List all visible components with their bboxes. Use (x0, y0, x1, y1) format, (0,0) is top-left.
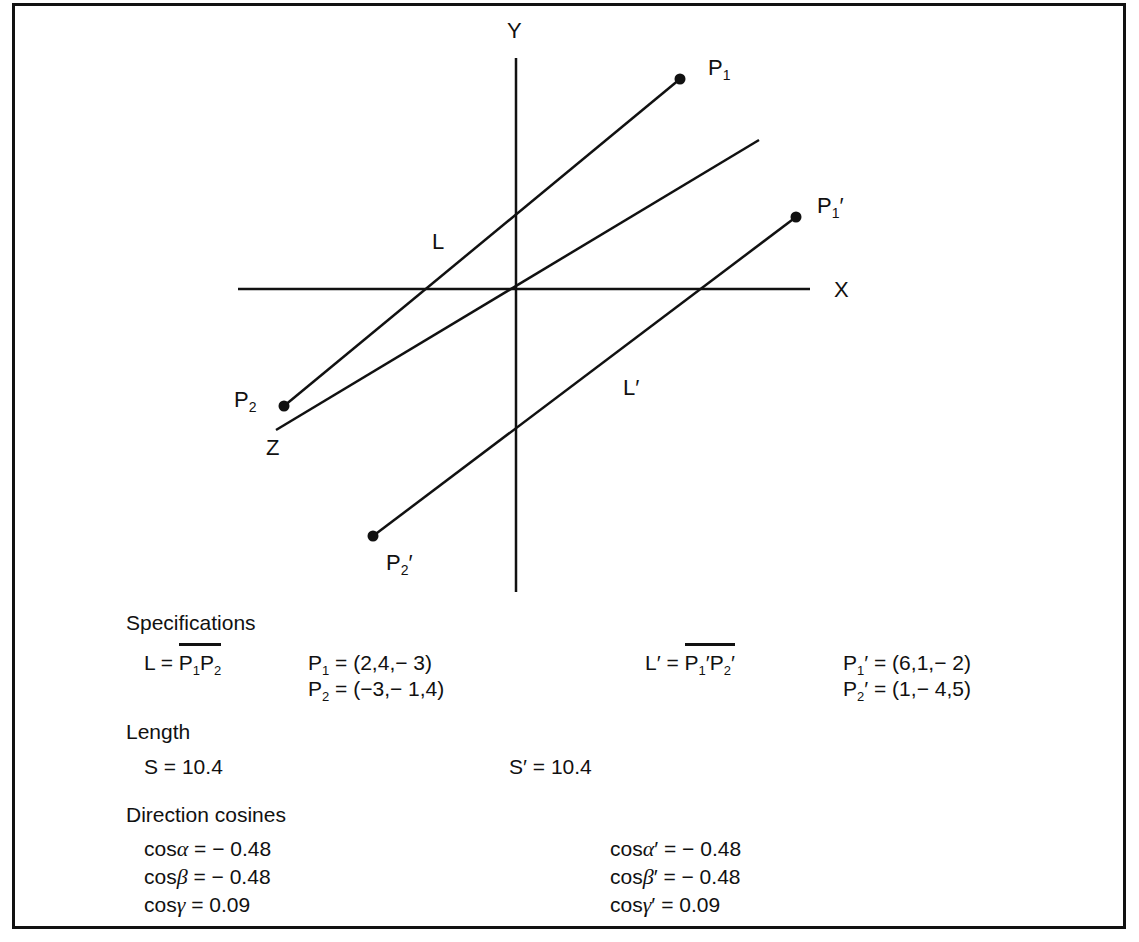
point-P2-label: P2 (234, 389, 256, 414)
cos-gamma-prime: cosγ′ = 0.09 (610, 894, 720, 916)
L-definition: L = P1P2 (144, 652, 221, 677)
P2-prime-coordinates: P2′ = (1,− 4,5) (843, 678, 971, 703)
z-axis-label: Z (266, 437, 279, 459)
point-P1-prime (791, 212, 802, 223)
3d-line-diagram (0, 0, 1139, 942)
specifications-heading: Specifications (126, 612, 256, 633)
cos-beta: cosβ = − 0.48 (144, 866, 271, 888)
point-P2 (279, 401, 290, 412)
P1-prime-coordinates: P1′ = (6,1,− 2) (843, 652, 971, 677)
P2-coordinates: P2 = (−3,− 1,4) (308, 678, 444, 703)
line-L-prime (373, 217, 796, 536)
line-L (284, 79, 680, 406)
line-L-prime-label: L′ (623, 377, 639, 399)
x-axis-label: X (834, 279, 849, 301)
cos-beta-prime: cosβ′ = − 0.48 (610, 866, 741, 888)
length-heading: Length (126, 721, 190, 742)
z-axis (276, 140, 759, 430)
point-P1-label: P1 (708, 57, 730, 82)
cos-alpha-prime: cosα′ = − 0.48 (610, 838, 741, 860)
y-axis-label: Y (507, 20, 522, 42)
point-P2-prime (368, 531, 379, 542)
cos-gamma: cosγ = 0.09 (144, 894, 250, 916)
length-S-prime: S′ = 10.4 (509, 756, 592, 777)
point-P2-prime-label: P2′ (386, 552, 413, 577)
point-P1 (675, 74, 686, 85)
direction-cosines-heading: Direction cosines (126, 804, 286, 825)
P1-coordinates: P1 = (2,4,− 3) (308, 652, 432, 677)
line-L-label: L (432, 231, 444, 253)
cos-alpha: cosα = − 0.48 (144, 838, 271, 860)
point-P1-prime-label: P1′ (817, 195, 844, 220)
L-prime-definition: L′ = P1′P2′ (645, 652, 735, 677)
length-S: S = 10.4 (144, 756, 223, 777)
